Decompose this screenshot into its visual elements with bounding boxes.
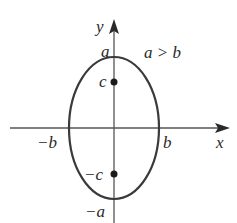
condition-label: a > b (144, 43, 181, 62)
vertex-bottom-label: −a (85, 202, 105, 221)
co-vertex-right-label: b (163, 133, 172, 152)
x-axis-label: x (215, 133, 224, 152)
focus-bottom-label: −c (84, 165, 103, 184)
vertex-top-label: a (101, 42, 110, 61)
ellipse-diagram: y x a a > b c −b b −c −a (0, 0, 237, 223)
focus-top-label: c (99, 72, 107, 91)
focus-bottom-dot (111, 171, 118, 178)
co-vertex-left-label: −b (37, 133, 57, 152)
y-axis-label: y (94, 17, 104, 36)
focus-top-dot (111, 79, 118, 86)
